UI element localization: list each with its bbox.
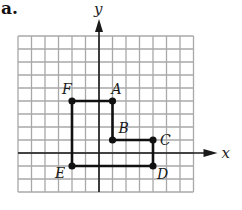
coordinate-diagram: a. xy ABCDEF (0, 0, 242, 210)
point-label-e: E (54, 165, 65, 181)
x-axis-arrow-icon (204, 149, 218, 157)
y-axis-arrow-icon (95, 19, 103, 32)
point-b-dot (109, 136, 116, 143)
part-label: a. (1, 0, 18, 18)
point-a-dot (109, 97, 116, 104)
point-f-dot (68, 97, 75, 104)
point-label-b: B (118, 120, 129, 136)
coordinate-plane: xy ABCDEF (0, 0, 242, 210)
point-label-f: F (61, 81, 73, 97)
x-axis-label: x (222, 144, 231, 162)
point-c-dot (149, 136, 156, 143)
point-d-dot (149, 162, 156, 169)
point-label-a: A (110, 81, 122, 97)
y-axis-label: y (93, 0, 103, 18)
point-label-c: C (160, 132, 171, 148)
point-label-d: D (156, 166, 168, 182)
axes: xy (18, 0, 231, 192)
point-e-dot (68, 162, 75, 169)
